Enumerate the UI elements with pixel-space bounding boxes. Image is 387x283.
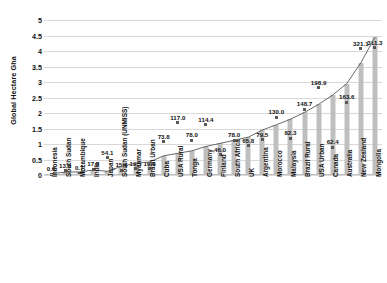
y-axis-tick-label: 3 <box>6 78 42 87</box>
y-axis-tick-label: 0 <box>6 171 42 180</box>
trend-line <box>44 20 382 175</box>
y-axis-tick-label: 5 <box>6 16 42 25</box>
chart-container: Global Hectare Gha 00.511.522.533.544.55… <box>0 0 387 283</box>
y-axis-tick-label: 4.5 <box>6 31 42 40</box>
x-axis-category-labels: IndonesiaSouth SudanMozambiqueIndiaJapan… <box>44 177 382 281</box>
y-axis-ticks: 00.511.522.533.544.55 <box>0 20 42 175</box>
y-axis-tick-label: 2 <box>6 109 42 118</box>
y-axis-tick-label: 3.5 <box>6 62 42 71</box>
y-axis-tick-label: 1.5 <box>6 124 42 133</box>
plot-area: 0.013.00.717.354.115.619.519.673.8117.07… <box>44 20 382 175</box>
y-axis-tick-label: 2.5 <box>6 93 42 102</box>
y-axis-tick-label: 4 <box>6 47 42 56</box>
y-axis-tick-label: 0.5 <box>6 155 42 164</box>
y-axis-tick-label: 1 <box>6 140 42 149</box>
